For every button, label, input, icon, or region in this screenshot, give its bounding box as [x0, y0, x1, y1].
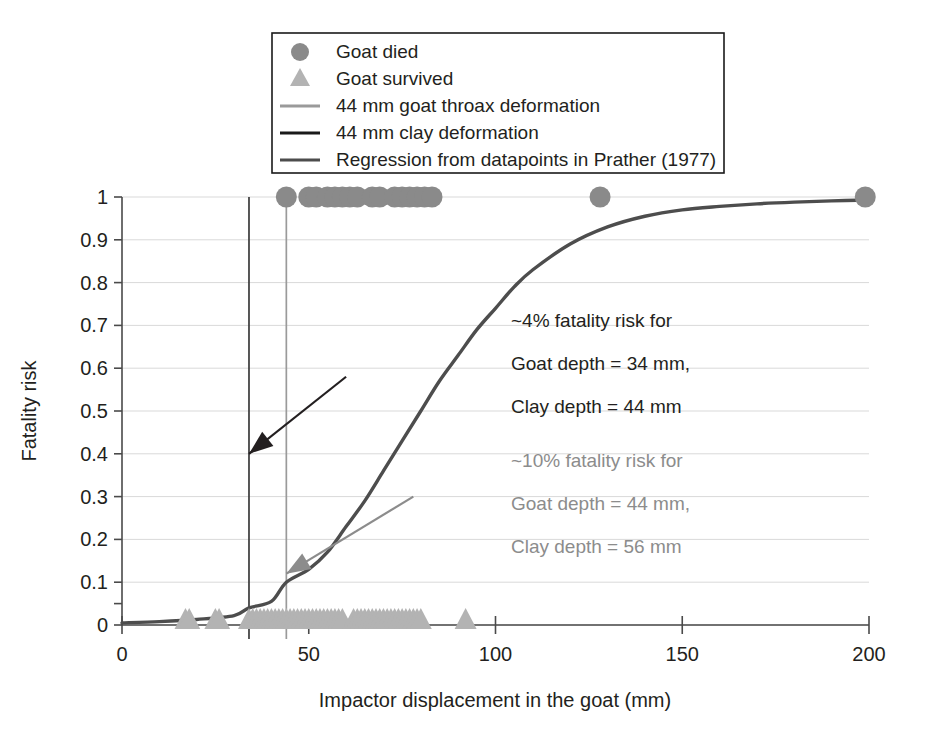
chart-legend: Goat diedGoat survived44 mm goat throax … — [272, 33, 724, 173]
goat-survived-marker — [455, 608, 477, 629]
annotation-dark-line1: ~4% fatality risk for — [511, 310, 673, 331]
goat-died-marker — [276, 187, 297, 208]
goat-died-marker — [590, 187, 611, 208]
chart-gridlines — [122, 197, 869, 625]
y-axis-tick-labels: 00.10.20.30.40.50.60.70.80.91 — [80, 186, 108, 636]
legend-item-label: 44 mm clay deformation — [336, 122, 539, 143]
y-tick-label: 0.3 — [80, 486, 108, 508]
x-axis-tick-labels: 050100150200 — [116, 643, 885, 665]
annotation-arrows — [249, 377, 413, 574]
annotation-dark-line2: Goat depth = 34 mm, — [511, 353, 690, 374]
fatality-risk-chart: 00.10.20.30.40.50.60.70.80.91 0501001502… — [0, 0, 931, 738]
y-tick-label: 0.9 — [80, 229, 108, 251]
annotation-arrowhead — [249, 432, 273, 454]
legend-item-label: Goat survived — [336, 68, 453, 89]
annotation-dark: ~4% fatality risk for Goat depth = 34 mm… — [511, 310, 690, 417]
figure-container: 00.10.20.30.40.50.60.70.80.91 0501001502… — [0, 0, 931, 738]
y-axis-ticks — [114, 197, 122, 625]
y-tick-label: 0.6 — [80, 357, 108, 379]
annotation-dark-line3: Clay depth = 44 mm — [511, 396, 682, 417]
x-axis-title: Impactor displacement in the goat (mm) — [319, 689, 671, 711]
y-tick-label: 0.5 — [80, 400, 108, 422]
annotation-gray-line3: Clay depth = 56 mm — [511, 536, 682, 557]
x-tick-label: 50 — [298, 643, 320, 665]
goat-died-marker — [855, 187, 876, 208]
annotation-gray-line1: ~10% fatality risk for — [511, 450, 683, 471]
legend-circle-icon — [291, 43, 309, 61]
annotation-gray: ~10% fatality risk for Goat depth = 44 m… — [511, 450, 690, 557]
legend-item-label: Goat died — [336, 41, 418, 62]
y-tick-label: 0.2 — [80, 528, 108, 550]
y-tick-label: 0.8 — [80, 272, 108, 294]
x-tick-label: 100 — [479, 643, 512, 665]
y-axis-title: Fatality risk — [18, 359, 40, 461]
legend-item-label: 44 mm goat throax deformation — [336, 95, 600, 116]
x-tick-label: 200 — [852, 643, 885, 665]
y-tick-label: 0 — [97, 614, 108, 636]
y-tick-label: 1 — [97, 186, 108, 208]
goat-survived-markers — [174, 608, 476, 629]
y-tick-label: 0.1 — [80, 571, 108, 593]
reference-lines — [249, 197, 286, 639]
y-tick-label: 0.4 — [80, 443, 108, 465]
legend-item-label: Regression from datapoints in Prather (1… — [336, 149, 716, 170]
goat-died-marker — [422, 187, 443, 208]
y-tick-label: 0.7 — [80, 314, 108, 336]
x-tick-label: 0 — [116, 643, 127, 665]
x-tick-label: 150 — [666, 643, 699, 665]
annotation-gray-line2: Goat depth = 44 mm, — [511, 493, 690, 514]
